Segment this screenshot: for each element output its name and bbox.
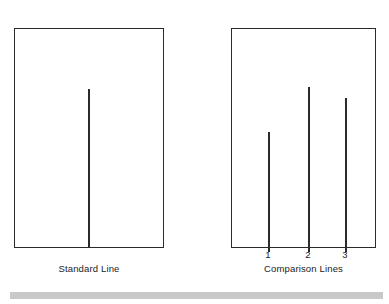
comparison-lines-panel xyxy=(231,28,376,248)
comparison-tick-label-2: 2 xyxy=(298,249,318,261)
comparison-line-3 xyxy=(345,98,347,247)
comparison-line-2 xyxy=(308,87,310,247)
comparison-tick-label-3: 3 xyxy=(335,249,355,261)
standard-line xyxy=(88,89,90,247)
comparison-line-1 xyxy=(268,132,270,247)
figure-root: Standard Line 1 2 3 Comparison Lines xyxy=(0,0,389,304)
comparison-panel-caption: Comparison Lines xyxy=(231,262,376,275)
bottom-divider-bar xyxy=(10,292,383,299)
standard-panel-caption: Standard Line xyxy=(14,262,164,275)
comparison-tick-label-1: 1 xyxy=(258,249,278,261)
